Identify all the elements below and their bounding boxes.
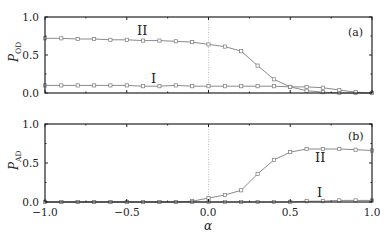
data-point-marker	[289, 85, 292, 88]
data-point-marker	[256, 64, 259, 67]
data-point-marker	[109, 84, 112, 87]
data-point-marker	[338, 147, 341, 150]
data-point-marker	[207, 85, 210, 88]
xtick-m05: −0.5	[114, 206, 140, 218]
data-point-marker	[142, 85, 145, 88]
data-point-marker	[256, 172, 259, 175]
data-point-marker	[191, 41, 194, 44]
ylabel-a: POD	[7, 42, 23, 63]
ytick-a-05: 0.5	[22, 49, 39, 61]
data-point-marker	[93, 37, 96, 40]
data-point-marker	[76, 37, 79, 40]
data-point-marker	[223, 193, 226, 196]
data-point-marker	[207, 43, 210, 46]
xtick-1: 1.0	[364, 206, 381, 218]
panel-b: 1.0 0.5 0.0 PAD (b) II I −1.0 −0.5 0.0 0…	[7, 118, 380, 233]
data-point-marker	[354, 148, 357, 151]
figure: 1.0 0.5 0.0 POD (a) II I 1.0 0.5 0.0 PAD…	[0, 0, 387, 238]
data-point-marker	[191, 85, 194, 88]
curve-label-b-II: II	[315, 150, 325, 165]
data-point-marker	[338, 88, 341, 91]
data-point-marker	[93, 84, 96, 87]
ytick-a-0: 0.0	[22, 87, 39, 99]
xtick-0: 0.0	[200, 206, 217, 218]
data-point-marker	[109, 38, 112, 41]
curve-label-a-II: II	[137, 23, 147, 38]
data-point-marker	[60, 37, 63, 40]
xlabel-alpha: α	[204, 219, 212, 233]
data-point-marker	[174, 84, 177, 87]
data-point-marker	[223, 45, 226, 48]
panel-label-a: (a)	[348, 26, 363, 39]
xtick-05: 0.5	[282, 206, 299, 218]
ylabel-b: PAD	[7, 150, 23, 171]
data-point-marker	[305, 147, 308, 150]
curve-label-b-I: I	[317, 185, 322, 200]
data-point-marker	[125, 84, 128, 87]
xtick-m1: −1.0	[32, 206, 58, 218]
data-point-marker	[240, 50, 243, 53]
panel-label-b: (b)	[348, 130, 364, 143]
data-point-marker	[240, 189, 243, 192]
data-point-marker	[256, 85, 259, 88]
data-point-marker	[76, 84, 79, 87]
data-point-marker	[174, 40, 177, 43]
data-point-marker	[272, 78, 275, 81]
data-point-marker	[321, 86, 324, 89]
data-point-marker	[60, 84, 63, 87]
panel-a: 1.0 0.5 0.0 POD (a) II I	[7, 11, 374, 99]
data-point-marker	[125, 38, 128, 41]
ytick-b-05: 0.5	[22, 157, 39, 169]
data-point-marker	[158, 39, 161, 42]
data-point-marker	[142, 39, 145, 42]
data-point-marker	[289, 151, 292, 154]
ytick-a-1: 1.0	[22, 11, 39, 23]
data-point-marker	[223, 85, 226, 88]
data-point-marker	[305, 89, 308, 92]
data-point-marker	[240, 85, 243, 88]
data-point-marker	[305, 85, 308, 88]
data-point-marker	[272, 158, 275, 161]
curve-label-a-I: I	[151, 71, 156, 86]
ytick-b-1: 1.0	[22, 118, 39, 130]
data-point-marker	[272, 85, 275, 88]
data-point-marker	[158, 85, 161, 88]
